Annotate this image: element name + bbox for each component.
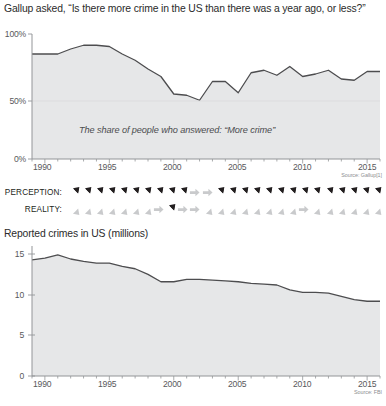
- arrow-up-icon: [116, 186, 128, 199]
- perception-xlabel-2010: 2010: [293, 162, 311, 172]
- reported-crimes-ylabel-10: 10: [0, 290, 24, 300]
- perception-chart: 100% 50% 0% The share of people who answ…: [0, 16, 386, 176]
- arrow-down-icon: [141, 203, 153, 216]
- arrow-down-icon: [346, 203, 358, 216]
- reported-crimes-xlabel-1990: 1990: [33, 379, 51, 389]
- reported-crimes-xlabel-2000: 2000: [163, 379, 181, 389]
- reality-arrow-cells: [68, 203, 382, 216]
- arrow-up-icon: [358, 186, 370, 199]
- arrow-down-icon: [92, 203, 104, 216]
- reported-crimes-plot: [0, 228, 386, 406]
- arrow-up-icon: [165, 203, 177, 216]
- arrow-right-icon: [177, 203, 189, 216]
- arrow-up-icon: [322, 186, 334, 199]
- reality-arrow-row: REALITY:: [0, 203, 382, 216]
- perception-arrow-row: PERCEPTION:: [0, 186, 382, 199]
- arrow-right-icon: [189, 186, 201, 199]
- arrow-up-icon: [346, 186, 358, 199]
- arrow-down-icon: [370, 203, 382, 216]
- arrow-up-icon: [370, 186, 382, 199]
- arrow-up-icon: [104, 186, 116, 199]
- reported-crimes-ylabel-0: 0: [0, 371, 24, 381]
- reported-crimes-xlabel-2015: 2015: [358, 379, 376, 389]
- arrow-down-icon: [286, 203, 298, 216]
- perception-ylabel-50: 50%: [0, 96, 26, 106]
- reported-crimes-x-tickmarks: [32, 376, 380, 381]
- arrow-down-icon: [104, 203, 116, 216]
- perception-xlabel-1990: 1990: [33, 162, 51, 172]
- arrow-down-icon: [249, 203, 261, 216]
- arrow-down-icon: [237, 203, 249, 216]
- perception-xlabel-2000: 2000: [163, 162, 181, 172]
- arrow-up-icon: [92, 186, 104, 199]
- perception-xlabel-2015: 2015: [358, 162, 376, 172]
- reported-crimes-ylabel-5: 5: [0, 330, 24, 340]
- reported-crimes-xlabel-1995: 1995: [98, 379, 116, 389]
- arrow-down-icon: [225, 203, 237, 216]
- perception-ylabel-0: 0%: [0, 154, 26, 164]
- arrow-up-icon: [80, 186, 92, 199]
- arrow-down-icon: [116, 203, 128, 216]
- arrow-up-icon: [249, 186, 261, 199]
- reported-crimes-ylabel-15: 15: [0, 249, 24, 259]
- arrow-up-icon: [213, 186, 225, 199]
- arrow-up-icon: [165, 186, 177, 199]
- infographic-page: Gallup asked, “Is there more crime in th…: [0, 0, 386, 406]
- reported-crimes-xlabel-2005: 2005: [228, 379, 246, 389]
- arrow-down-icon: [262, 203, 274, 216]
- arrow-down-icon: [128, 203, 140, 216]
- arrow-up-icon: [262, 186, 274, 199]
- arrow-up-icon: [128, 186, 140, 199]
- arrow-down-icon: [201, 203, 213, 216]
- reported-crimes-xlabel-2010: 2010: [293, 379, 311, 389]
- arrow-right-icon: [189, 203, 201, 216]
- perception-annotation: The share of people who answered: “More …: [79, 125, 275, 135]
- perception-ylabel-100: 100%: [0, 29, 26, 39]
- arrow-down-icon: [68, 203, 80, 216]
- perception-xlabel-1995: 1995: [98, 162, 116, 172]
- arrow-up-icon: [286, 186, 298, 199]
- arrow-up-icon: [153, 186, 165, 199]
- arrow-right-icon: [298, 203, 310, 216]
- arrow-up-icon: [177, 186, 189, 199]
- arrow-up-icon: [68, 186, 80, 199]
- arrow-down-icon: [274, 203, 286, 216]
- perception-xlabel-2005: 2005: [228, 162, 246, 172]
- reported-crimes-source: Source: FBI: [354, 389, 382, 395]
- arrow-down-icon: [334, 203, 346, 216]
- perception-x-tickmarks: [32, 159, 380, 164]
- perception-source: Source: Gallup[1]: [341, 172, 382, 178]
- arrow-down-icon: [310, 203, 322, 216]
- arrow-up-icon: [141, 186, 153, 199]
- arrow-right-icon: [201, 186, 213, 199]
- reality-row-label: REALITY:: [0, 205, 68, 214]
- arrow-up-icon: [237, 186, 249, 199]
- perception-row-label: PERCEPTION:: [0, 188, 68, 197]
- perception-arrow-cells: [68, 186, 382, 199]
- reported-crimes-area: [32, 255, 380, 376]
- arrow-down-icon: [80, 203, 92, 216]
- perception-chart-plot: [0, 16, 386, 176]
- arrow-down-icon: [322, 203, 334, 216]
- arrow-down-icon: [358, 203, 370, 216]
- arrow-up-icon: [334, 186, 346, 199]
- reported-crimes-chart: Reported crimes in US (millions) 15 10 5…: [0, 228, 386, 406]
- arrow-down-icon: [213, 203, 225, 216]
- arrow-right-icon: [153, 203, 165, 216]
- page-headline: Gallup asked, “Is there more crime in th…: [4, 3, 382, 14]
- arrow-up-icon: [310, 186, 322, 199]
- arrow-up-icon: [274, 186, 286, 199]
- arrow-up-icon: [225, 186, 237, 199]
- perception-area: [32, 45, 380, 159]
- arrow-up-icon: [298, 186, 310, 199]
